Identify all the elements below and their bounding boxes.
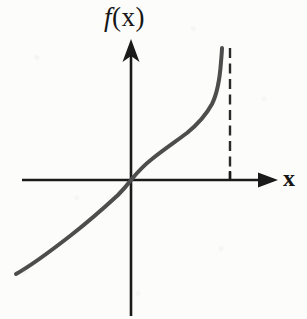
function-curve — [16, 48, 222, 274]
function-graph-figure: f(x) x — [0, 0, 307, 319]
y-axis-label: f(x) — [104, 4, 145, 31]
graph-canvas — [0, 0, 307, 319]
y-axis-label-open-paren: ( — [112, 2, 122, 32]
x-axis-arrowhead — [258, 173, 278, 188]
y-axis-label-close-paren: ) — [136, 2, 146, 32]
y-axis-label-variable: x — [122, 2, 136, 32]
y-axis-label-function-letter: f — [104, 2, 112, 32]
x-axis-label: x — [283, 166, 295, 190]
